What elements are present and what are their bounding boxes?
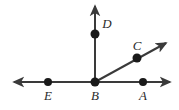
diagram-svg: E B A D C	[0, 0, 179, 110]
geometry-figure: E B A D C	[0, 0, 179, 110]
diagonal-ray	[95, 43, 166, 82]
point-label-D: D	[101, 16, 112, 31]
point-D	[91, 30, 100, 39]
point-label-C: C	[133, 38, 142, 53]
lines-group	[14, 6, 170, 82]
point-label-A: A	[138, 88, 147, 103]
point-B	[91, 78, 100, 87]
point-label-B: B	[91, 88, 99, 103]
point-E	[44, 78, 52, 86]
point-A	[139, 78, 147, 86]
point-label-E: E	[43, 88, 52, 103]
point-C	[133, 54, 142, 63]
